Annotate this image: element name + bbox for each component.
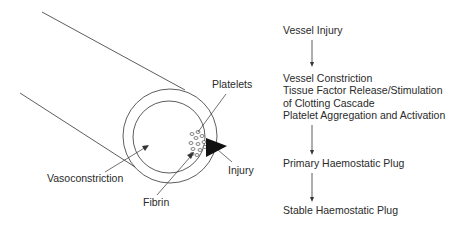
step-text: of Clotting Cascade — [283, 97, 445, 109]
step-text: Stable Haemostatic Plug — [283, 204, 398, 216]
flow-step-vessel-injury: Vessel Injury — [283, 24, 343, 36]
step-text: Tissue Factor Release/Stimulation — [283, 84, 445, 96]
flow-step-response: Vessel Constriction Tissue Factor Releas… — [283, 72, 445, 121]
label-injury: Injury — [228, 164, 254, 176]
label-platelets: Platelets — [212, 78, 252, 90]
step-text: Vessel Injury — [283, 24, 343, 36]
fibrin-arrow — [157, 156, 191, 195]
step-text: Primary Haemostatic Plug — [283, 157, 404, 169]
step-text: Platelet Aggregation and Activation — [283, 109, 445, 121]
label-vasoconstriction: Vasoconstriction — [47, 172, 123, 184]
vessel-wall-upper — [42, 12, 185, 90]
platelets-leader — [198, 94, 226, 132]
flow-step-primary-plug: Primary Haemostatic Plug — [283, 157, 404, 169]
vasoconstriction-arrowhead — [142, 145, 149, 151]
label-fibrin: Fibrin — [143, 196, 169, 208]
flow-step-stable-plug: Stable Haemostatic Plug — [283, 204, 398, 216]
injury-leader — [218, 150, 232, 162]
step-text: Vessel Constriction — [283, 72, 445, 84]
platelet-cluster — [189, 131, 207, 157]
vessel-wall-lower — [20, 93, 135, 167]
